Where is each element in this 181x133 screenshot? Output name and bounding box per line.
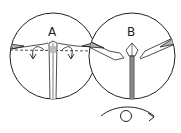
panel-b-label: B (127, 25, 135, 39)
panel-b: B (89, 13, 175, 100)
turn-over-icon (101, 107, 154, 122)
panel-a: A (10, 13, 96, 100)
panel-a-label: A (48, 25, 57, 39)
origami-diagram: A B (0, 0, 181, 133)
